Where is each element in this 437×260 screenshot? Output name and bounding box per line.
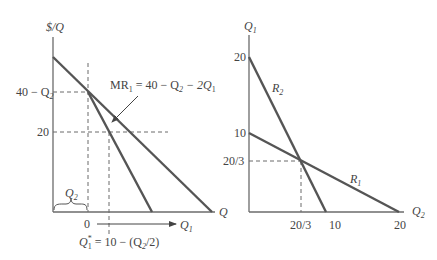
y-tick-10: 10: [234, 126, 246, 140]
x-tick-10: 10: [329, 218, 341, 232]
x-tick-20-3: 20/3: [290, 218, 311, 232]
left-panel-demand-mr: $/Q Q 40 − Q2 20 0 MR1 = 40 − Q2 − 2Q1 Q…: [16, 20, 228, 251]
reaction-curve-r1: [249, 133, 399, 212]
q1-arrow-label: Q1: [180, 218, 193, 234]
mr1-equation-label: MR1 = 40 − Q2 − 2Q1: [110, 78, 216, 94]
right-y-axis-label: Q1: [244, 19, 257, 35]
y-tick-20: 20: [234, 50, 246, 64]
r2-curve-label: R2: [271, 81, 283, 97]
tick-40-minus-q2: 40 − Q2: [16, 85, 53, 101]
mr1-curve: [88, 92, 152, 212]
x-tick-20: 20: [394, 218, 406, 232]
tick-zero: 0: [84, 217, 90, 231]
left-x-axis-label: Q: [219, 205, 228, 219]
brace-q2-label: Q2: [65, 186, 78, 202]
y-tick-20-3: 20/3: [223, 154, 244, 168]
q1-star-equation-label: Q*1 = 10 − (Q2/2): [79, 234, 159, 251]
cournot-diagram: $/Q Q 40 − Q2 20 0 MR1 = 40 − Q2 − 2Q1 Q…: [0, 0, 437, 260]
right-panel-reaction-curves: Q1 Q2 20 10 20/3 20/3 10 20 R2 R1: [223, 19, 425, 232]
r1-curve-label: R1: [349, 172, 361, 188]
reaction-curve-r2: [249, 57, 326, 212]
tick-20: 20: [37, 125, 49, 139]
left-y-axis-label: $/Q: [46, 20, 64, 34]
right-x-axis-label: Q2: [412, 204, 425, 220]
q2-brace: [54, 199, 87, 210]
mr-label-pointer-arrow: [112, 96, 138, 122]
